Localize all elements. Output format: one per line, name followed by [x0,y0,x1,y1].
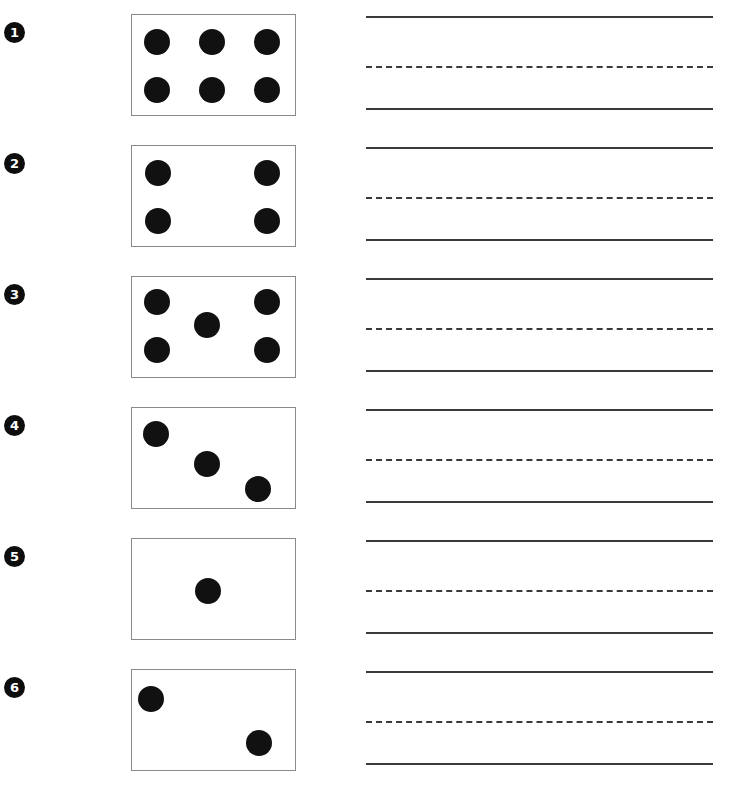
dot [254,29,280,55]
dot [145,208,171,234]
exercise-row-4: 4 [0,393,729,524]
dot-card-6 [131,669,296,771]
worksheet-page: 123456 [0,0,729,794]
dot-card-4 [131,407,296,509]
rule-line-top [366,409,713,411]
row-number-badge-3: 3 [4,284,25,305]
rule-line-middle-dashed [366,66,713,68]
rule-line-middle-dashed [366,459,713,461]
rule-line-baseline [366,501,713,503]
answer-lines-3[interactable] [366,262,713,393]
dot [254,77,280,103]
row-number-badge-2: 2 [4,153,25,174]
rule-line-middle-dashed [366,328,713,330]
rule-line-top [366,671,713,673]
dot-card-2 [131,145,296,247]
dot [143,421,169,447]
exercise-row-1: 1 [0,0,729,131]
dot [194,451,220,477]
rule-line-middle-dashed [366,197,713,199]
answer-lines-4[interactable] [366,393,713,524]
dot [254,208,280,234]
rule-line-baseline [366,632,713,634]
answer-lines-1[interactable] [366,0,713,131]
rule-line-baseline [366,370,713,372]
answer-lines-2[interactable] [366,131,713,262]
exercise-row-2: 2 [0,131,729,262]
dot [199,77,225,103]
dot [145,160,171,186]
dot [254,289,280,315]
dot-card-1 [131,14,296,116]
exercise-row-6: 6 [0,655,729,786]
dot [138,686,164,712]
row-number-badge-1: 1 [4,22,25,43]
rule-line-baseline [366,239,713,241]
rule-line-baseline [366,108,713,110]
rule-line-middle-dashed [366,721,713,723]
dot [195,578,221,604]
dot [245,476,271,502]
exercise-row-3: 3 [0,262,729,393]
row-number-badge-6: 6 [4,677,25,698]
dot [199,29,225,55]
dot-card-3 [131,276,296,378]
dot [144,289,170,315]
dot [254,337,280,363]
dot-card-5 [131,538,296,640]
answer-lines-6[interactable] [366,655,713,786]
dot [254,160,280,186]
rule-line-middle-dashed [366,590,713,592]
row-number-badge-4: 4 [4,415,25,436]
rule-line-top [366,147,713,149]
exercise-row-5: 5 [0,524,729,655]
rule-line-top [366,16,713,18]
answer-lines-5[interactable] [366,524,713,655]
rule-line-top [366,540,713,542]
dot [144,29,170,55]
rule-line-baseline [366,763,713,765]
dot [194,312,220,338]
rule-line-top [366,278,713,280]
dot [144,77,170,103]
dot [246,730,272,756]
dot [144,337,170,363]
row-number-badge-5: 5 [4,546,25,567]
